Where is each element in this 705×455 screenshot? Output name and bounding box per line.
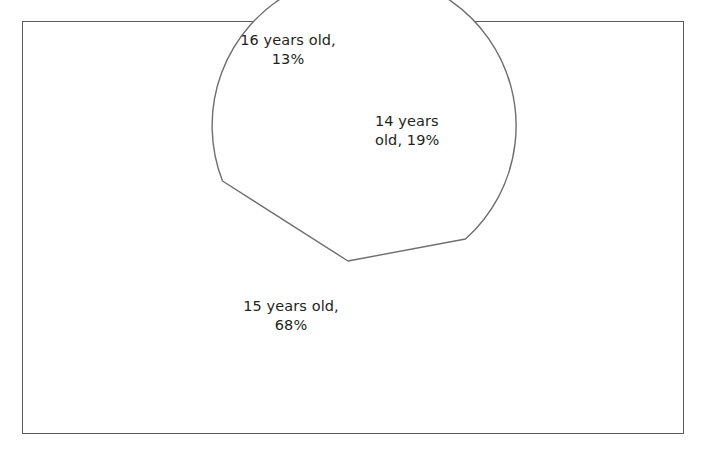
pie-label-16-years-old: 16 years old, 13% xyxy=(200,31,376,68)
pie-label-14-years-old: 14 years old, 19% xyxy=(375,112,471,149)
pie-label-15-years-old: 15 years old, 68% xyxy=(205,297,377,334)
pie-chart xyxy=(0,0,705,455)
